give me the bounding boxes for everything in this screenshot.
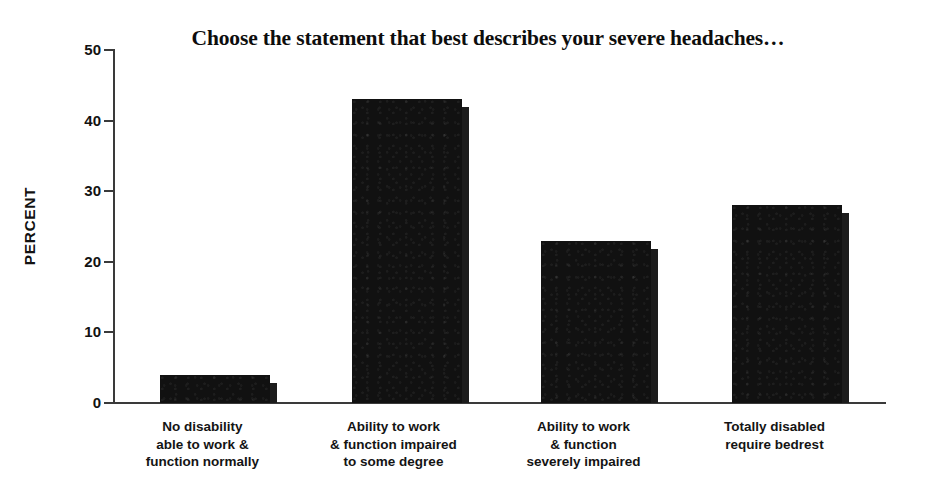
y-tick-label: 20 bbox=[84, 252, 101, 269]
y-tick-label: 30 bbox=[84, 182, 101, 199]
x-category-line: function normally bbox=[95, 453, 310, 471]
y-tick-label: 40 bbox=[84, 111, 101, 128]
x-category-label-3: Totally disabled require bedrest bbox=[667, 418, 882, 453]
x-category-line: Totally disabled bbox=[667, 418, 882, 436]
x-category-label-1: Ability to work & function impaired to s… bbox=[286, 418, 501, 471]
chart-page: Choose the statement that best describes… bbox=[0, 0, 934, 499]
x-category-line: No disability bbox=[95, 418, 310, 436]
bar-body bbox=[160, 375, 270, 403]
y-tick-label: 10 bbox=[84, 323, 101, 340]
y-tick-mark bbox=[104, 190, 114, 192]
y-axis-title-text: PERCENT bbox=[21, 186, 39, 264]
y-axis-title: PERCENT bbox=[18, 49, 42, 402]
y-tick-mark bbox=[104, 120, 114, 122]
x-category-line: to some degree bbox=[286, 453, 501, 471]
x-category-line: require bedrest bbox=[667, 436, 882, 454]
y-tick-mark bbox=[104, 261, 114, 263]
y-tick-mark bbox=[104, 49, 114, 51]
bar-totally-disabled[interactable] bbox=[732, 204, 842, 402]
y-tick-mark bbox=[104, 331, 114, 333]
y-tick-label: 0 bbox=[93, 394, 101, 411]
bar-body bbox=[352, 99, 462, 403]
x-category-line: & function impaired bbox=[286, 436, 501, 454]
x-category-line: & function bbox=[476, 436, 691, 454]
bar-body bbox=[732, 205, 842, 403]
x-category-line: severely impaired bbox=[476, 453, 691, 471]
x-category-line: able to work & bbox=[95, 436, 310, 454]
y-axis-line bbox=[113, 49, 115, 402]
x-category-label-0: No disability able to work & function no… bbox=[95, 418, 310, 471]
x-category-line: Ability to work bbox=[476, 418, 691, 436]
y-tick-label: 50 bbox=[84, 41, 101, 58]
chart-title: Choose the statement that best describes… bbox=[0, 26, 934, 51]
plot-area: 0 10 20 30 40 50 bbox=[113, 49, 886, 402]
bar-impaired-some-degree[interactable] bbox=[352, 98, 462, 402]
x-category-line: Ability to work bbox=[286, 418, 501, 436]
bar-body bbox=[541, 241, 651, 403]
y-tick-mark bbox=[104, 402, 114, 404]
x-category-label-2: Ability to work & function severely impa… bbox=[476, 418, 691, 471]
bar-no-disability[interactable] bbox=[160, 374, 270, 402]
bar-severely-impaired[interactable] bbox=[541, 240, 651, 402]
